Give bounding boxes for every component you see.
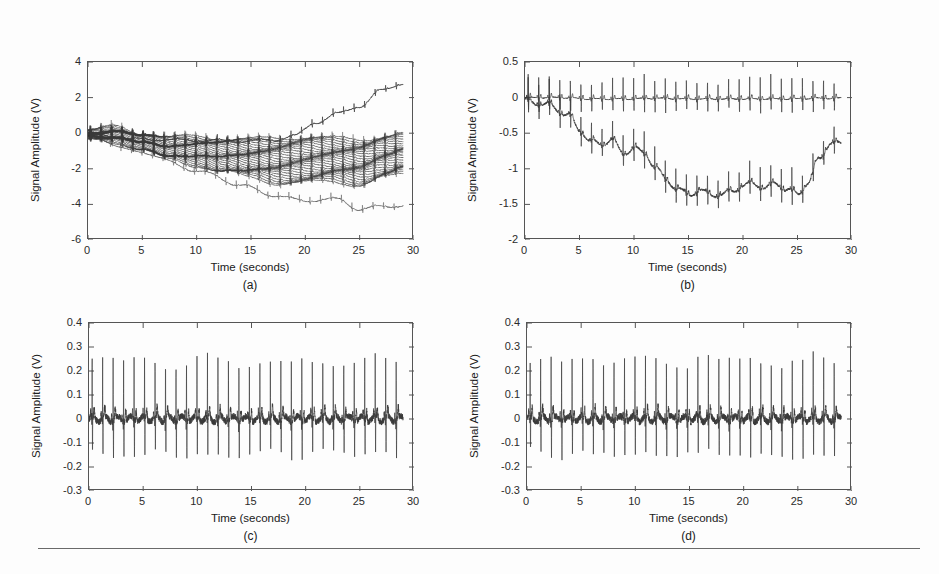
x-tick-label-b: 15: [681, 244, 693, 256]
plot-area-a: [87, 61, 413, 239]
x-tick-label-d: 30: [845, 495, 857, 507]
x-tick-label-c: 0: [85, 495, 91, 507]
y-tick-label-c: -0.2: [44, 460, 82, 472]
x-tick-label-c: 30: [407, 495, 419, 507]
plot-area-b: [524, 61, 851, 239]
plot-area-d: [526, 322, 851, 490]
y-tick-label-d: 0.4: [482, 316, 520, 328]
x-tick-label-a: 0: [84, 244, 90, 256]
y-tick-label-a: 4: [43, 55, 81, 67]
y-tick-label-d: 0.2: [482, 364, 520, 376]
y-tick-label-c: -0.1: [44, 436, 82, 448]
plot-area-c: [88, 322, 413, 490]
x-tick-label-d: 5: [577, 495, 583, 507]
x-axis-label-d: Time (seconds): [649, 512, 728, 524]
figure-page: 420-2-4-6051015202530 Signal Amplitude (…: [0, 0, 939, 574]
y-tick-label-a: 2: [43, 91, 81, 103]
y-tick-label-a: 0: [43, 126, 81, 138]
y-tick-label-c: 0.2: [44, 364, 82, 376]
y-tick-label-b: -2: [480, 233, 518, 245]
y-tick-label-d: -0.3: [482, 484, 520, 496]
signal-traces-c: [89, 323, 414, 491]
x-tick-label-b: 0: [521, 244, 527, 256]
x-tick-label-d: 25: [791, 495, 803, 507]
x-tick-label-b: 25: [790, 244, 802, 256]
y-tick-label-b: 0: [480, 91, 518, 103]
y-tick-label-c: 0.3: [44, 340, 82, 352]
panel-caption-b: (b): [680, 278, 695, 292]
signal-traces-a: [88, 62, 414, 240]
y-tick-label-a: -6: [43, 233, 81, 245]
x-tick-label-d: 15: [682, 495, 694, 507]
x-tick-label-b: 10: [627, 244, 639, 256]
panel-caption-a: (a): [243, 278, 258, 292]
x-tick-label-c: 10: [190, 495, 202, 507]
x-tick-label-c: 15: [244, 495, 256, 507]
y-axis-label-c: Signal Amplitude (V): [30, 354, 42, 458]
y-tick-label-b: -1: [480, 162, 518, 174]
x-tick-label-b: 30: [845, 244, 857, 256]
y-tick-label-c: 0: [44, 412, 82, 424]
x-tick-label-d: 10: [628, 495, 640, 507]
y-tick-label-d: 0: [482, 412, 520, 424]
y-tick-label-c: -0.3: [44, 484, 82, 496]
y-tick-label-a: -2: [43, 162, 81, 174]
signal-traces-b: [525, 62, 852, 240]
y-axis-label-a: Signal Amplitude (V): [29, 98, 41, 202]
x-tick-label-a: 20: [298, 244, 310, 256]
y-tick-label-d: -0.1: [482, 436, 520, 448]
x-tick-label-a: 5: [138, 244, 144, 256]
y-tick-label-c: 0.4: [44, 316, 82, 328]
x-tick-label-a: 10: [190, 244, 202, 256]
x-tick-label-d: 20: [737, 495, 749, 507]
x-tick-label-b: 20: [736, 244, 748, 256]
y-tick-label-b: -0.5: [480, 126, 518, 138]
x-tick-label-c: 20: [299, 495, 311, 507]
page-footer-rule: [38, 548, 920, 549]
x-axis-label-a: Time (seconds): [211, 261, 290, 273]
y-tick-label-d: 0.3: [482, 340, 520, 352]
y-tick-label-a: -4: [43, 197, 81, 209]
x-tick-label-a: 30: [407, 244, 419, 256]
y-tick-label-d: 0.1: [482, 388, 520, 400]
y-tick-label-c: 0.1: [44, 388, 82, 400]
x-tick-label-c: 25: [353, 495, 365, 507]
y-axis-label-b: Signal Amplitude (V): [466, 98, 478, 202]
x-tick-label-d: 0: [523, 495, 529, 507]
panel-caption-c: (c): [244, 529, 258, 543]
x-tick-label-a: 25: [353, 244, 365, 256]
x-axis-label-c: Time (seconds): [211, 512, 290, 524]
panel-caption-d: (d): [681, 529, 696, 543]
signal-traces-d: [527, 323, 852, 491]
y-tick-label-b: 0.5: [480, 55, 518, 67]
y-tick-label-d: -0.2: [482, 460, 520, 472]
y-tick-label-b: -1.5: [480, 197, 518, 209]
y-axis-label-d: Signal Amplitude (V): [468, 354, 480, 458]
x-axis-label-b: Time (seconds): [648, 261, 727, 273]
x-tick-label-b: 5: [575, 244, 581, 256]
x-tick-label-a: 15: [244, 244, 256, 256]
x-tick-label-c: 5: [139, 495, 145, 507]
